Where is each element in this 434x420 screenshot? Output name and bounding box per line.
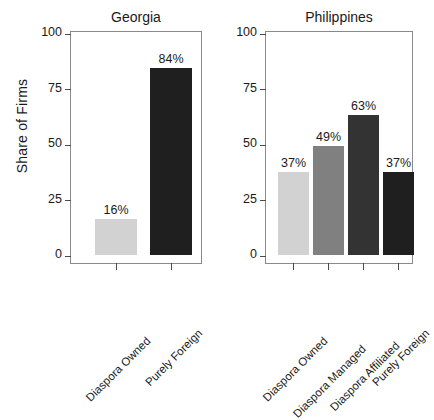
- y-tick-label: 50: [48, 136, 62, 150]
- bar-rect: [150, 68, 192, 254]
- bar-rect: [313, 146, 344, 255]
- y-tick-label: 25: [243, 192, 257, 206]
- bar-philippines-1[interactable]: 49%: [313, 146, 344, 255]
- bar-rect: [278, 172, 309, 254]
- bar-philippines-2[interactable]: 63%: [348, 115, 379, 255]
- y-axis-title: Share of Firms: [14, 56, 30, 196]
- bar-rect: [348, 115, 379, 255]
- y-tick-label: 75: [48, 81, 62, 95]
- bar-georgia-1[interactable]: 84%: [150, 68, 192, 254]
- y-tick-label: 25: [48, 192, 62, 206]
- panel-title-philippines: Philippines: [266, 9, 412, 25]
- bar-philippines-0[interactable]: 37%: [278, 172, 309, 254]
- bars-georgia: 16% 84%: [71, 32, 201, 263]
- bar-rect: [95, 219, 137, 255]
- bar-value-label: 84%: [136, 52, 206, 66]
- bar-value-label: 37%: [369, 156, 428, 170]
- x-tick-mark: [363, 263, 364, 270]
- bar-value-label: 16%: [81, 203, 151, 217]
- panel-georgia: Georgia 0 25 50 75 100: [70, 31, 202, 264]
- panel-title-georgia: Georgia: [71, 9, 201, 25]
- bar-philippines-3[interactable]: 37%: [383, 172, 414, 254]
- bar-value-label: 63%: [334, 99, 393, 113]
- panel-philippines: Philippines 0 25 50 75 100: [265, 31, 413, 264]
- y-tick-label: 50: [243, 136, 257, 150]
- bar-rect: [383, 172, 414, 254]
- y-tick-label: 75: [243, 81, 257, 95]
- x-tick-mark: [293, 263, 294, 270]
- y-tick-label: 0: [55, 247, 62, 261]
- bar-georgia-0[interactable]: 16%: [95, 219, 137, 255]
- bars-philippines: 37% 49% 63% 37%: [266, 32, 412, 263]
- y-tick-label: 0: [250, 247, 257, 261]
- x-tick-mark: [398, 263, 399, 270]
- y-tick-label: 100: [236, 25, 257, 39]
- y-tick-label: 100: [41, 25, 62, 39]
- x-tick-mark: [328, 263, 329, 270]
- x-tick-mark: [116, 263, 117, 270]
- x-tick-mark: [171, 263, 172, 270]
